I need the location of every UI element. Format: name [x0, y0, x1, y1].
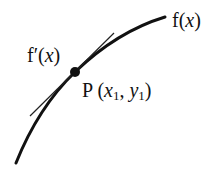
point-label-y-var: y — [129, 79, 138, 101]
curve-label-paren-close: ) — [194, 9, 201, 31]
point-label-open: ( — [92, 79, 104, 101]
tangent-label-paren-open: ( — [38, 44, 45, 66]
tangent-label-var: x — [45, 44, 54, 66]
point-label-name: P — [82, 79, 92, 101]
point-p-dot — [70, 67, 80, 77]
curve-label-name: f — [172, 9, 179, 31]
point-label: P (x1, y1) — [82, 80, 152, 102]
curve-label: f(x) — [172, 10, 201, 30]
point-label-x-var: x — [104, 79, 113, 101]
tangent-label: f′(x) — [27, 45, 60, 65]
point-label-sep: , — [119, 79, 129, 101]
diagram-canvas: f(x) f′(x) P (x1, y1) — [0, 0, 212, 176]
tangent-label-name: f′ — [27, 44, 38, 66]
point-label-close: ) — [145, 79, 152, 101]
curve-label-var: x — [185, 9, 194, 31]
tangent-label-paren-close: ) — [54, 44, 61, 66]
